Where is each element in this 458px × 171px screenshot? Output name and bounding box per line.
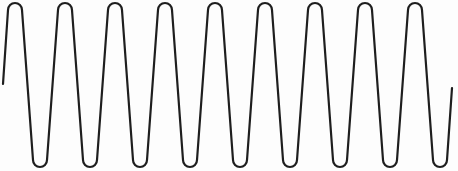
zigzag-path bbox=[3, 3, 452, 167]
figure-canvas bbox=[0, 0, 458, 171]
zigzag-spring-line bbox=[0, 0, 458, 171]
